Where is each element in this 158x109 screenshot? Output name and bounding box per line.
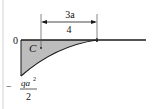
moment-diagram: 3a 4 0 C − qa 2 2 <box>0 0 158 109</box>
dim-arrow-left-icon <box>41 20 47 24</box>
dim-arrow-right-icon <box>91 20 97 24</box>
min-value-numerator: qa <box>21 78 31 88</box>
dim-numerator: 3a <box>65 9 75 20</box>
origin-label: 0 <box>13 35 18 46</box>
min-value-sign: − <box>6 81 12 92</box>
min-value-exponent: 2 <box>33 76 36 82</box>
dim-denominator: 4 <box>67 24 72 35</box>
point-c-label: C <box>29 42 37 54</box>
min-value-denominator: 2 <box>26 91 31 102</box>
point-c-dot <box>40 47 42 49</box>
